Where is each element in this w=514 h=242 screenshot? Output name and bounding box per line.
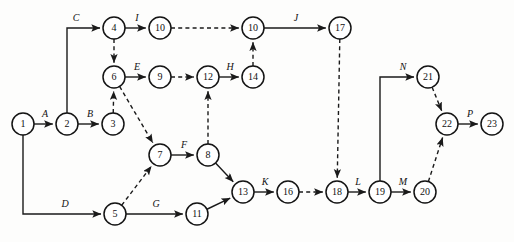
node-6-n6[interactable]: 6 — [103, 66, 125, 88]
edge-n8-to-n13 — [216, 163, 234, 182]
edge-n20-to-n22 — [428, 138, 442, 182]
node-circle-n3[interactable] — [102, 113, 124, 135]
node-21-n21[interactable]: 21 — [417, 66, 439, 88]
edge-label-F: F — [180, 139, 188, 150]
node-circle-n14[interactable] — [242, 66, 264, 88]
edge-n6-to-n7 — [120, 86, 153, 142]
node-14-n14[interactable]: 14 — [242, 66, 264, 88]
node-circle-n20[interactable] — [414, 181, 436, 203]
node-17-n17[interactable]: 17 — [329, 17, 351, 39]
node-11-n11[interactable]: 11 — [186, 203, 208, 225]
edge-label-H: H — [225, 61, 234, 72]
node-circle-n21[interactable] — [417, 66, 439, 88]
edge-label-I: I — [134, 12, 139, 23]
node-circle-n7[interactable] — [149, 144, 171, 166]
node-circle-n18[interactable] — [326, 181, 348, 203]
network-graph: ABCDEFGHIJKLMNP 123456789101011121314161… — [0, 0, 514, 242]
edge-n19-to-n21 — [380, 77, 414, 181]
edge-label-D: D — [60, 198, 69, 209]
node-23-n23[interactable]: 23 — [481, 113, 503, 135]
edge-label-N: N — [399, 61, 408, 72]
edge-label-B: B — [87, 108, 93, 119]
edge-label-G: G — [152, 198, 159, 209]
node-circle-n10a[interactable] — [149, 17, 171, 39]
node-circle-n13[interactable] — [232, 181, 254, 203]
node-circle-n4[interactable] — [103, 17, 125, 39]
node-1-n1[interactable]: 1 — [12, 113, 34, 135]
node-circle-n19[interactable] — [369, 181, 391, 203]
node-18-n18[interactable]: 18 — [326, 181, 348, 203]
node-22-n22[interactable]: 22 — [436, 113, 458, 135]
node-circle-n23[interactable] — [481, 113, 503, 135]
edge-label-E: E — [133, 61, 140, 72]
edge-label-K: K — [261, 176, 270, 187]
edge-n21-to-n22 — [432, 87, 442, 111]
edge-n17-to-n18 — [337, 39, 340, 178]
node-circle-n8[interactable] — [197, 144, 219, 166]
edge-n5-to-n7 — [122, 166, 152, 205]
edge-label-P: P — [466, 108, 473, 119]
node-19-n19[interactable]: 19 — [369, 181, 391, 203]
node-circle-n5[interactable] — [104, 203, 126, 225]
edge-label-M: M — [398, 176, 408, 187]
edge-label-L: L — [354, 176, 361, 187]
node-5-n5[interactable]: 5 — [104, 203, 126, 225]
node-2-n2[interactable]: 2 — [56, 113, 78, 135]
edge-n2-to-n4 — [67, 28, 100, 113]
node-12-n12[interactable]: 12 — [197, 66, 219, 88]
node-7-n7[interactable]: 7 — [149, 144, 171, 166]
node-circle-n10b[interactable] — [242, 17, 264, 39]
edge-label-layer: ABCDEFGHIJKLMNP — [41, 12, 473, 209]
node-circle-n22[interactable] — [436, 113, 458, 135]
node-circle-n11[interactable] — [186, 203, 208, 225]
node-circle-n1[interactable] — [12, 113, 34, 135]
node-20-n20[interactable]: 20 — [414, 181, 436, 203]
node-8-n8[interactable]: 8 — [197, 144, 219, 166]
node-3-n3[interactable]: 3 — [102, 113, 124, 135]
node-layer: 1234567891010111213141617181920212223 — [12, 17, 503, 225]
node-circle-n16[interactable] — [277, 181, 299, 203]
node-circle-n12[interactable] — [197, 66, 219, 88]
node-9-n9[interactable]: 9 — [149, 66, 171, 88]
edge-label-C: C — [73, 12, 80, 23]
node-10-n10a[interactable]: 10 — [149, 17, 171, 39]
node-circle-n2[interactable] — [56, 113, 78, 135]
edge-label-J: J — [294, 12, 299, 23]
edge-n11-to-n13 — [207, 198, 230, 209]
node-4-n4[interactable]: 4 — [103, 17, 125, 39]
network-diagram-canvas: ABCDEFGHIJKLMNP 123456789101011121314161… — [0, 0, 514, 242]
node-circle-n17[interactable] — [329, 17, 351, 39]
edge-label-A: A — [41, 108, 49, 119]
node-circle-n6[interactable] — [103, 66, 125, 88]
node-10-n10b[interactable]: 10 — [242, 17, 264, 39]
node-16-n16[interactable]: 16 — [277, 181, 299, 203]
node-13-n13[interactable]: 13 — [232, 181, 254, 203]
node-circle-n9[interactable] — [149, 66, 171, 88]
